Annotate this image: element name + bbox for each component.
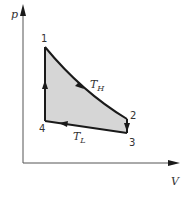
point-1-label: 1 [41, 33, 47, 44]
point-3-label: 3 [129, 137, 135, 148]
point-4-label: 4 [39, 123, 45, 134]
y-axis-arrow-icon [20, 4, 26, 16]
svg-text:TH: TH [90, 78, 105, 93]
point-2-label: 2 [130, 110, 136, 121]
tl-label: TL [73, 130, 86, 145]
th-label: TH [90, 78, 105, 93]
x-axis-arrow-icon [168, 160, 180, 166]
x-axis-label: V [171, 175, 180, 188]
pv-diagram: p V 1 2 3 4 TH TL [0, 0, 194, 197]
y-axis-label: p [11, 8, 18, 21]
svg-text:TL: TL [73, 130, 86, 145]
